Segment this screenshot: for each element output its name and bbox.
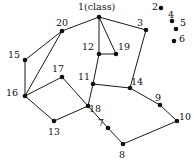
- graph-node-19[interactable]: [114, 52, 119, 57]
- graph-canvas: [0, 0, 194, 162]
- graph-node-label-17: 17: [52, 64, 64, 74]
- graph-node-15[interactable]: [23, 58, 28, 63]
- graph-edge-9-10: [160, 105, 177, 121]
- graph-node-label-13: 13: [48, 127, 60, 137]
- graph-node-label-6: 6: [179, 34, 185, 44]
- graph-edge-12-11: [93, 54, 99, 84]
- graph-edge-20-15: [25, 31, 62, 60]
- graph-node-13[interactable]: [52, 119, 57, 124]
- graph-node-label-16: 16: [6, 88, 18, 98]
- graph-node-label-1: 1(class): [78, 2, 115, 12]
- graph-node-label-18: 18: [89, 104, 101, 114]
- graph-node-8[interactable]: [121, 142, 126, 147]
- graph-node-20[interactable]: [60, 29, 65, 34]
- graph-edge-16-13: [25, 96, 54, 121]
- graph-node-11[interactable]: [91, 82, 96, 87]
- graph-node-12[interactable]: [97, 52, 102, 57]
- graph-node-9[interactable]: [158, 103, 163, 108]
- graph-node-label-14: 14: [131, 77, 143, 87]
- graph-node-label-2: 2: [152, 2, 158, 12]
- graph-node-7[interactable]: [106, 126, 111, 131]
- graph-node-label-15: 15: [8, 50, 20, 60]
- graph-node-2[interactable]: [159, 6, 164, 11]
- graph-node-17[interactable]: [60, 75, 65, 80]
- graph-node-label-3: 3: [137, 18, 143, 28]
- graph-node-label-12: 12: [82, 42, 94, 52]
- graph-node-1[interactable]: [97, 15, 102, 20]
- graph-node-6[interactable]: [172, 39, 177, 44]
- graph-node-label-10: 10: [179, 112, 191, 122]
- graph-node-label-7: 7: [98, 118, 104, 128]
- graph-node-label-11: 11: [78, 72, 90, 82]
- graph-node-16[interactable]: [23, 94, 28, 99]
- graph-edge-7-8: [108, 128, 123, 144]
- graph-edge-8-10: [123, 121, 177, 144]
- graph-node-label-19: 19: [118, 42, 130, 52]
- graph-node-3[interactable]: [144, 28, 149, 33]
- graph-edge-1-19: [99, 17, 116, 54]
- graph-node-label-5: 5: [180, 18, 186, 28]
- graph-node-label-20: 20: [56, 18, 68, 28]
- graph-node-label-9: 9: [155, 93, 161, 103]
- graph-edge-13-18: [54, 106, 88, 121]
- graph-node-label-8: 8: [119, 150, 125, 160]
- graph-node-5[interactable]: [174, 27, 179, 32]
- graph-figure: 1(class)234567891011121314151617181920: [0, 0, 194, 162]
- graph-edge-11-14: [93, 84, 130, 88]
- graph-node-label-4: 4: [168, 10, 174, 20]
